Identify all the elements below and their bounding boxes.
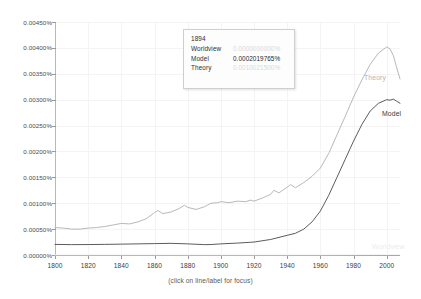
tooltip-series-value: 0.0002019765% [233,55,280,62]
y-tick-label: 0.00050% [4,226,52,233]
x-tick-label[interactable]: 1940 [270,262,304,269]
x-tick-mark [287,255,288,259]
tooltip-series-name: Theory [191,64,233,71]
tooltip-rows: Worldview0.0000000000%Model0.0002019765%… [191,45,287,71]
tooltip-series-value: 0.0000000000% [233,45,280,52]
tooltip-series-name: Worldview [191,45,233,52]
series-line-model[interactable] [55,99,400,244]
x-tick-label[interactable]: 1800 [38,262,72,269]
x-tick-label[interactable]: 1960 [303,262,337,269]
ngram-chart: 0.00450%0.00400%0.00350%0.00300%0.00250%… [0,0,421,299]
x-tick-label[interactable]: 1860 [138,262,172,269]
tooltip-row: Worldview0.0000000000% [191,45,287,52]
x-tick-label[interactable]: 1840 [104,262,138,269]
x-tick-label[interactable]: 1820 [71,262,105,269]
y-tick-label: 0.00450% [4,19,52,26]
x-tick-label[interactable]: 1920 [237,262,271,269]
y-tick-label: 0.00000% [4,252,52,259]
series-label-model[interactable]: Model [382,110,401,117]
tooltip-series-name: Model [191,55,233,62]
x-tick-label[interactable]: 1880 [171,262,205,269]
tooltip-row: Model0.0002019765% [191,55,287,62]
x-tick-label[interactable]: 1980 [337,262,371,269]
chart-caption: (click on line/label for focus) [0,277,421,284]
y-tick-label: 0.00200% [4,148,52,155]
tooltip-row: Theory0.0010021500% [191,64,287,71]
x-tick-mark [387,255,388,259]
x-tick-label[interactable]: 2000 [370,262,404,269]
x-tick-mark [155,255,156,259]
y-tick-label: 0.00350% [4,70,52,77]
series-label-theory[interactable]: Theory [364,74,386,81]
tooltip-series-value: 0.0010021500% [233,64,280,71]
x-tick-mark [55,255,56,259]
y-tick-label: 0.00400% [4,44,52,51]
y-tick-label: 0.00100% [4,200,52,207]
x-tick-mark [188,255,189,259]
y-tick-label: 0.00300% [4,96,52,103]
series-label-worldview[interactable]: Worldview [372,243,405,250]
x-tick-label[interactable]: 1900 [204,262,238,269]
y-tick-label: 0.00250% [4,122,52,129]
y-tick-label: 0.00150% [4,174,52,181]
x-tick-mark [320,255,321,259]
tooltip-year: 1894 [191,35,287,42]
tooltip: 1894 Worldview0.0000000000%Model0.000201… [183,29,295,89]
x-tick-mark [121,255,122,259]
x-tick-mark [254,255,255,259]
x-tick-mark [221,255,222,259]
x-tick-mark [88,255,89,259]
x-tick-mark [354,255,355,259]
